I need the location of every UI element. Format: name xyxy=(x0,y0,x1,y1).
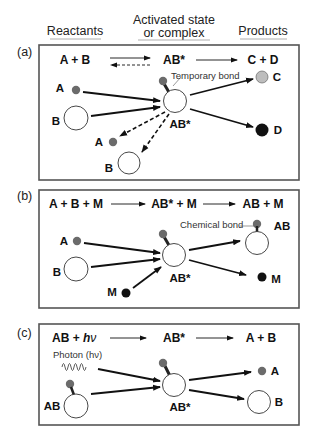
complex-atom-b xyxy=(164,90,187,113)
equation-reactants: A + B xyxy=(60,53,91,67)
equation-products: C + D xyxy=(247,53,278,67)
header-products: Products xyxy=(238,24,287,38)
equation-intermediate: AB* xyxy=(163,53,185,67)
complex-atom-a xyxy=(159,230,167,238)
atom-b-label: B xyxy=(52,115,60,127)
panel-label: (c) xyxy=(17,326,32,340)
atom-m-label: M xyxy=(107,286,117,298)
atom-c xyxy=(256,71,268,83)
panel-c: (c) AB + hν AB* A + B Photon (hν) AB AB*… xyxy=(17,324,299,425)
complex-label: AB* xyxy=(169,272,191,284)
header-activated-line1: Activated state xyxy=(133,13,215,27)
equation-reactants: A + B + M xyxy=(49,197,103,211)
atom-b-label: B xyxy=(53,266,61,278)
atom-a xyxy=(72,86,80,94)
product-atom-b xyxy=(246,232,269,255)
back-atom-b xyxy=(118,152,140,174)
product-atom-a xyxy=(258,367,266,375)
panel-label: (a) xyxy=(17,45,32,59)
product-b-label: B xyxy=(275,396,283,408)
reactant-atom-b xyxy=(64,394,88,418)
panel-b: (b) A + B + M AB* + M AB + M A B M AB* A… xyxy=(17,189,299,308)
product-a-label: A xyxy=(271,365,279,377)
complex-label: AB* xyxy=(169,118,191,130)
back-atom-a xyxy=(109,138,117,146)
back-atom-b-label: B xyxy=(105,162,113,174)
atom-a-label: A xyxy=(56,82,64,94)
complex-atom-a xyxy=(159,359,167,367)
atom-c-label: C xyxy=(273,71,281,83)
product-atom-m xyxy=(258,273,267,282)
chemical-bond-annotation: Chemical bond xyxy=(180,219,243,230)
header-activated-line2: or complex xyxy=(143,26,205,40)
atom-a-label: A xyxy=(60,235,68,247)
complex-atom-b xyxy=(163,374,186,397)
reactant-ab-label: AB xyxy=(44,400,61,412)
product-ab-label: AB xyxy=(274,220,291,232)
panel-label: (b) xyxy=(17,189,32,203)
equation-intermediate: AB* + M xyxy=(151,197,197,211)
atom-b xyxy=(64,106,88,130)
equation-reactants: AB + hν xyxy=(52,331,96,345)
column-headers: Reactants Activated state or complex Pro… xyxy=(47,13,288,40)
reaction-mechanism-diagram: Reactants Activated state or complex Pro… xyxy=(0,0,314,440)
equation-intermediate: AB* xyxy=(163,331,185,345)
atom-m xyxy=(122,289,131,298)
atom-a xyxy=(73,237,81,245)
complex-label: AB* xyxy=(169,401,191,413)
photon-annotation: Photon (hν) xyxy=(53,349,102,360)
atom-b xyxy=(64,257,88,281)
panel-a: (a) A + B AB* C + D A B AB* Temporary bo… xyxy=(17,45,299,180)
product-atom-b xyxy=(248,391,271,414)
equation-products: A + B xyxy=(246,331,277,345)
back-atom-a-label: A xyxy=(95,136,103,148)
product-m-label: M xyxy=(271,273,281,285)
header-reactants: Reactants xyxy=(47,24,103,38)
reactant-atom-a xyxy=(66,380,74,388)
complex-atom-a xyxy=(159,77,167,85)
equation-products: AB + M xyxy=(242,197,283,211)
atom-d-label: D xyxy=(274,124,282,136)
temporary-bond-annotation: Temporary bond xyxy=(171,70,240,81)
atom-d xyxy=(256,124,269,137)
complex-atom-b xyxy=(163,244,186,267)
